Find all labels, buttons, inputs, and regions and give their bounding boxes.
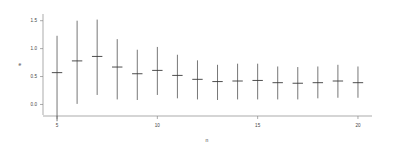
y-ticks-group: 0.00.51.01.5 xyxy=(31,18,43,107)
y-tick-label: 1.0 xyxy=(31,46,38,51)
y-tick-label: 0.5 xyxy=(31,74,38,79)
errorbar-plot: 0.00.51.01.5 5101520 e n xyxy=(0,0,397,152)
x-tick-label: 10 xyxy=(155,123,161,128)
x-axis-title: n xyxy=(206,137,209,143)
x-tick-label: 15 xyxy=(255,123,261,128)
chart-figure: 0.00.51.01.5 5101520 e n xyxy=(0,0,397,152)
y-tick-label: 1.5 xyxy=(31,18,38,23)
axes-group xyxy=(43,14,372,116)
x-tick-label: 20 xyxy=(355,123,361,128)
y-axis-title: e xyxy=(19,61,22,67)
data-series-group xyxy=(52,20,363,122)
y-tick-label: 0.0 xyxy=(31,102,38,107)
x-ticks-group: 5101520 xyxy=(56,116,361,128)
x-tick-label: 5 xyxy=(56,123,59,128)
